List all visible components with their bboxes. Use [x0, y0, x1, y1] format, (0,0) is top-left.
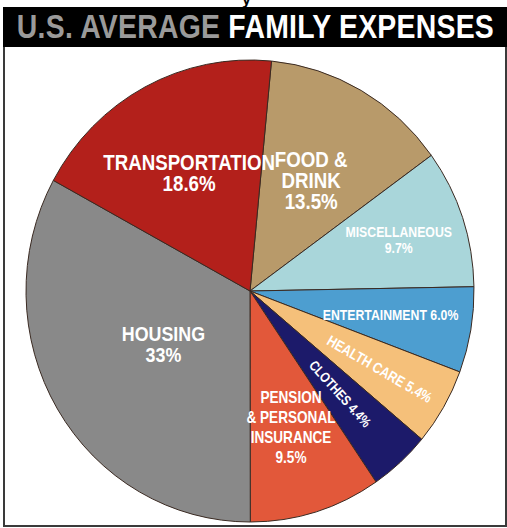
- slice-label-line: MISCELLANEOUS: [345, 224, 452, 240]
- slice-label-line: 9.5%: [276, 449, 307, 466]
- slice-label-line: & PERSONAL: [246, 409, 335, 426]
- slice-label-line: 18.6%: [163, 171, 216, 195]
- slice-label-line: 13.5%: [285, 190, 338, 214]
- slice-label-line: 9.7%: [385, 239, 413, 255]
- slice-label: FOOD &DRINK13.5%: [275, 148, 348, 214]
- slice-label-line: INSURANCE: [251, 429, 332, 446]
- slice-label-line: ENTERTAINMENT 6.0%: [323, 307, 459, 323]
- slice-label-line: PENSION: [260, 389, 321, 406]
- pie-slices: [26, 60, 474, 522]
- slice-label: ENTERTAINMENT 6.0%: [323, 307, 459, 323]
- slice-label-line: 33%: [146, 342, 182, 366]
